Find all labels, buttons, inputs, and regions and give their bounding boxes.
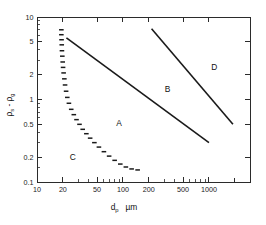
x-axis-unit: µm [119, 202, 138, 212]
x-axis-title-text: dp µm [111, 202, 138, 213]
y-tick-label-1: 5 [30, 37, 34, 46]
region-label-b: B [165, 84, 171, 94]
chart-figure: 105210.50.20.11020501002005001000 ABCD d… [0, 0, 266, 225]
x-tick-label-1: 20 [59, 185, 67, 194]
x-tick-label-6: 1000 [201, 185, 217, 194]
log-log-regime-chart: 105210.50.20.11020501002005001000 ABCD d… [0, 0, 266, 225]
y-axis-title: ρs - ρg [4, 93, 15, 116]
x-axis-title: dp µm [111, 202, 138, 213]
region-label-d: D [211, 62, 217, 72]
y-tick-label-2: 2 [30, 70, 34, 79]
y-axis-title-text: ρs - ρg [4, 93, 15, 116]
region-label-a: A [116, 118, 122, 128]
x-tick-label-3: 100 [117, 185, 129, 194]
y-axis-rho-g-subscript: g [9, 93, 15, 96]
y-tick-label-4: 0.5 [24, 120, 34, 129]
x-tick-label-2: 50 [93, 185, 101, 194]
x-tick-label-5: 500 [177, 185, 189, 194]
region-label-c: C [70, 152, 76, 162]
y-tick-label-6: 0.1 [24, 178, 34, 187]
x-tick-label-0: 10 [33, 185, 41, 194]
y-tick-label-5: 0.2 [24, 153, 34, 162]
x-tick-label-4: 200 [143, 185, 155, 194]
y-axis-dash: - [4, 101, 14, 108]
y-tick-label-3: 1 [30, 95, 34, 104]
y-tick-label-0: 10 [26, 13, 34, 22]
